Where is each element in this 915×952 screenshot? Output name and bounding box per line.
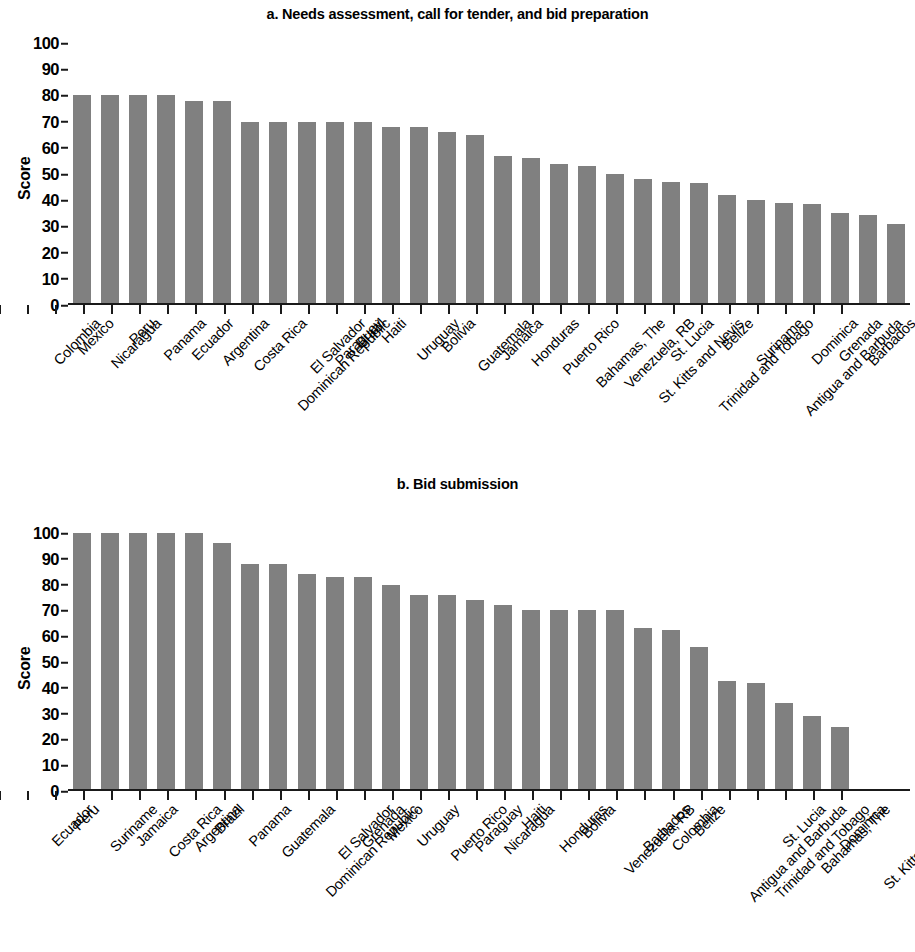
bar-slot[interactable] <box>601 43 629 305</box>
bar[interactable] <box>634 179 652 305</box>
bar[interactable] <box>466 600 484 791</box>
bar-slot[interactable] <box>461 533 489 791</box>
bar[interactable] <box>326 122 344 305</box>
bar[interactable] <box>494 156 512 305</box>
bar[interactable] <box>382 585 400 791</box>
bar[interactable] <box>747 683 765 791</box>
bar[interactable] <box>606 174 624 305</box>
bar-slot[interactable] <box>826 533 854 791</box>
bar[interactable] <box>129 533 147 791</box>
bar-slot[interactable] <box>742 43 770 305</box>
bar-slot[interactable] <box>517 533 545 791</box>
bar[interactable] <box>241 564 259 791</box>
bar-slot[interactable] <box>770 533 798 791</box>
bar[interactable] <box>354 122 372 305</box>
bar[interactable] <box>101 95 119 305</box>
bar-slot[interactable] <box>854 43 882 305</box>
bar[interactable] <box>690 183 708 305</box>
bar[interactable] <box>382 127 400 305</box>
bar[interactable] <box>438 132 456 305</box>
bar[interactable] <box>747 200 765 305</box>
bar[interactable] <box>269 564 287 791</box>
bar[interactable] <box>101 533 119 791</box>
bar-slot[interactable] <box>96 533 124 791</box>
bar-slot[interactable] <box>152 533 180 791</box>
bar-slot[interactable] <box>713 43 741 305</box>
bar[interactable] <box>550 610 568 791</box>
bar-slot[interactable] <box>236 43 264 305</box>
bar[interactable] <box>578 166 596 305</box>
bar[interactable] <box>522 158 540 305</box>
bar-slot[interactable] <box>882 43 910 305</box>
bar[interactable] <box>494 605 512 791</box>
bar-slot[interactable] <box>854 533 882 791</box>
bar-slot[interactable] <box>405 533 433 791</box>
bar-slot[interactable] <box>657 43 685 305</box>
bar[interactable] <box>550 164 568 305</box>
bar-slot[interactable] <box>798 43 826 305</box>
bar-slot[interactable] <box>685 533 713 791</box>
bar[interactable] <box>213 101 231 305</box>
bar[interactable] <box>410 595 428 791</box>
bar[interactable] <box>73 95 91 305</box>
bar-slot[interactable] <box>882 533 910 791</box>
bar[interactable] <box>298 574 316 791</box>
bar[interactable] <box>634 628 652 791</box>
bar[interactable] <box>718 681 736 791</box>
bar-slot[interactable] <box>657 533 685 791</box>
bar-slot[interactable] <box>96 43 124 305</box>
bar[interactable] <box>522 610 540 791</box>
bar-slot[interactable] <box>601 533 629 791</box>
bar[interactable] <box>241 122 259 305</box>
bar[interactable] <box>73 533 91 791</box>
bar[interactable] <box>269 122 287 305</box>
bar-slot[interactable] <box>685 43 713 305</box>
bar-slot[interactable] <box>68 533 96 791</box>
bar-slot[interactable] <box>68 43 96 305</box>
bar-slot[interactable] <box>770 43 798 305</box>
bar[interactable] <box>354 577 372 791</box>
bar-slot[interactable] <box>208 533 236 791</box>
bar[interactable] <box>887 224 905 305</box>
bar[interactable] <box>662 182 680 305</box>
bar[interactable] <box>831 727 849 792</box>
bar[interactable] <box>859 215 877 305</box>
bar-slot[interactable] <box>713 533 741 791</box>
bar-slot[interactable] <box>321 533 349 791</box>
bar[interactable] <box>718 195 736 305</box>
bar[interactable] <box>803 716 821 791</box>
bar-slot[interactable] <box>180 533 208 791</box>
bar-slot[interactable] <box>236 533 264 791</box>
bar[interactable] <box>129 95 147 305</box>
bar-slot[interactable] <box>433 43 461 305</box>
bar[interactable] <box>298 122 316 305</box>
bar[interactable] <box>775 203 793 305</box>
bar[interactable] <box>690 647 708 791</box>
bar-slot[interactable] <box>461 43 489 305</box>
bar-slot[interactable] <box>545 533 573 791</box>
bar-slot[interactable] <box>321 43 349 305</box>
bar[interactable] <box>326 577 344 791</box>
bar-slot[interactable] <box>517 43 545 305</box>
bar[interactable] <box>803 204 821 305</box>
bar-slot[interactable] <box>124 43 152 305</box>
bar[interactable] <box>157 533 175 791</box>
bar-slot[interactable] <box>264 43 292 305</box>
bar-slot[interactable] <box>124 533 152 791</box>
bar-slot[interactable] <box>573 533 601 791</box>
bar[interactable] <box>662 630 680 791</box>
bar-slot[interactable] <box>152 43 180 305</box>
bar-slot[interactable] <box>293 533 321 791</box>
bar[interactable] <box>466 135 484 305</box>
bar-slot[interactable] <box>293 43 321 305</box>
bar-slot[interactable] <box>377 43 405 305</box>
bar-slot[interactable] <box>264 533 292 791</box>
bar[interactable] <box>606 610 624 791</box>
bar[interactable] <box>213 543 231 791</box>
bar-slot[interactable] <box>208 43 236 305</box>
bar-slot[interactable] <box>573 43 601 305</box>
bar[interactable] <box>157 95 175 305</box>
bar[interactable] <box>410 127 428 305</box>
bar[interactable] <box>438 595 456 791</box>
bar-slot[interactable] <box>377 533 405 791</box>
